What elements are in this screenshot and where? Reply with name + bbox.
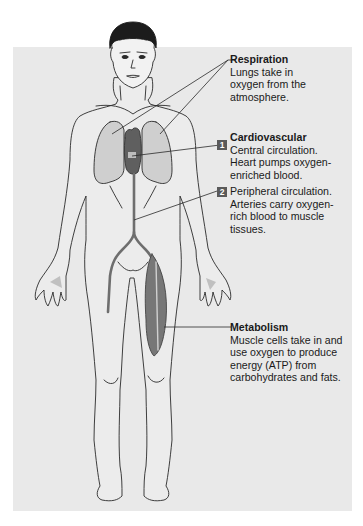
peripheral-text-line: tissues.	[230, 223, 334, 236]
step-badge-2: 2	[217, 187, 227, 197]
metabolism-text-line: energy (ATP) from	[230, 359, 342, 372]
callout-peripheral: Peripheral circulation. Arteries carry o…	[230, 185, 334, 235]
metabolism-title: Metabolism	[230, 321, 342, 334]
callout-cardiovascular: Cardiovascular Central circulation. Hear…	[230, 131, 331, 181]
cardiovascular-text-line: Central circulation.	[230, 144, 331, 157]
respiration-title: Respiration	[230, 53, 306, 66]
heart	[124, 128, 141, 174]
peripheral-text-line: Arteries carry oxygen-	[230, 198, 334, 211]
callout-metabolism: Metabolism Muscle cells take in and use …	[230, 321, 342, 384]
metabolism-text-line: use oxygen to produce	[230, 346, 342, 359]
respiration-text-line: atmosphere.	[230, 91, 306, 104]
cardiovascular-title: Cardiovascular	[230, 131, 331, 144]
cardiovascular-text-line: enriched blood.	[230, 169, 331, 182]
callout-respiration: Respiration Lungs take in oxygen from th…	[230, 53, 306, 103]
human-body-figure	[0, 0, 363, 526]
metabolism-text-line: carbohydrates and fats.	[230, 371, 342, 384]
step-badge-1: 1	[217, 140, 227, 150]
cardiovascular-text-line: Heart pumps oxygen-	[230, 156, 331, 169]
peripheral-text-line: Peripheral circulation.	[230, 185, 334, 198]
metabolism-text-line: Muscle cells take in and	[230, 334, 342, 347]
respiration-text-line: oxygen from the	[230, 78, 306, 91]
respiration-text-line: Lungs take in	[230, 66, 306, 79]
peripheral-text-line: rich blood to muscle	[230, 210, 334, 223]
